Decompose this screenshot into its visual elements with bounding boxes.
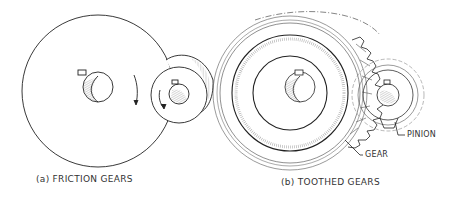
keyway-large: [78, 70, 86, 75]
pinion: [352, 59, 424, 131]
pinion-label: PINION: [407, 130, 436, 139]
caption-toothed-gears: (b) TOOTHED GEARS: [281, 177, 380, 187]
keyway-small: [172, 80, 178, 84]
gears-illustration: [0, 0, 454, 197]
friction-gears-drawing: [22, 15, 213, 167]
large-toothed-gear: [213, 12, 383, 170]
gear-label: GEAR: [365, 150, 388, 159]
toothed-gears-drawing: [213, 12, 424, 170]
keyway-pinion: [384, 80, 390, 84]
caption-friction-gears: (a) FRICTION GEARS: [36, 174, 133, 184]
keyway-gear: [295, 70, 303, 75]
